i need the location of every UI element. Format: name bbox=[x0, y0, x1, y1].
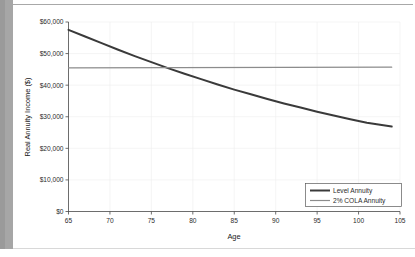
x-axis-tick-label: 70 bbox=[106, 217, 114, 224]
y-axis-title: Real Annuity Income ($) bbox=[23, 78, 32, 157]
y-axis-tick-label: $0 bbox=[56, 208, 64, 215]
series-line-level-annuity bbox=[69, 30, 392, 127]
y-axis-tick-label: $40,000 bbox=[40, 82, 64, 89]
chart-series-group bbox=[69, 30, 392, 127]
x-axis-tick-labels: 65707580859095100105 bbox=[65, 217, 406, 224]
y-axis-tick-label: $30,000 bbox=[40, 113, 64, 120]
x-axis-ticks bbox=[69, 212, 401, 215]
y-axis-tick-label: $10,000 bbox=[40, 176, 64, 183]
y-axis-tick-label: $20,000 bbox=[40, 145, 64, 152]
x-axis-tick-label: 80 bbox=[189, 217, 197, 224]
x-axis-tick-label: 100 bbox=[353, 217, 364, 224]
y-axis-ticks bbox=[66, 22, 69, 212]
chart-legend[interactable]: Level Annuity 2% COLA Annuity bbox=[306, 184, 402, 207]
x-axis-tick-label: 95 bbox=[313, 217, 321, 224]
y-axis-tick-label: $60,000 bbox=[40, 18, 64, 25]
y-axis-tick-label: $50,000 bbox=[40, 50, 64, 57]
y-axis-tick-labels: $0$10,000$20,000$30,000$40,000$50,000$60… bbox=[40, 18, 64, 215]
x-axis-tick-label: 85 bbox=[231, 217, 239, 224]
x-axis-title: Age bbox=[227, 232, 240, 241]
x-axis-tick-label: 90 bbox=[272, 217, 280, 224]
legend-label-cola-annuity: 2% COLA Annuity bbox=[333, 197, 386, 205]
series-line-2-cola-annuity bbox=[69, 67, 392, 68]
x-axis-tick-label: 65 bbox=[65, 217, 73, 224]
chart-figure: $0$10,000$20,000$30,000$40,000$50,000$60… bbox=[0, 0, 415, 257]
legend-label-level-annuity: Level Annuity bbox=[333, 187, 373, 195]
annuity-income-line-chart: $0$10,000$20,000$30,000$40,000$50,000$60… bbox=[0, 0, 415, 257]
x-axis-tick-label: 105 bbox=[394, 217, 405, 224]
x-axis-tick-label: 75 bbox=[148, 217, 156, 224]
